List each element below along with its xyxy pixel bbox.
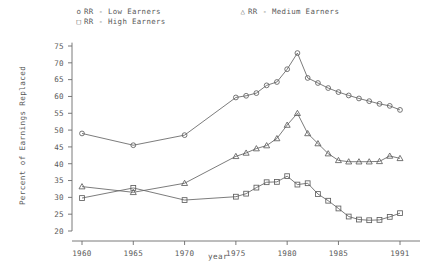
y-tick-label: 40 [54, 160, 64, 169]
y-tick-label: 45 [54, 143, 64, 152]
x-tick-label: 1985 [329, 249, 349, 258]
y-tick-label: 20 [54, 227, 64, 236]
series-triangle [79, 110, 403, 194]
series-circle [80, 51, 403, 148]
series-line [82, 53, 400, 145]
chart-figure: oRR - Low Earners □RR - High Earners △RR… [0, 0, 436, 271]
y-tick-label: 30 [54, 193, 64, 202]
series-line [82, 113, 400, 192]
y-tick-label: 60 [54, 92, 64, 101]
x-tick-label: 1991 [390, 249, 410, 258]
y-tick-label: 35 [54, 176, 64, 185]
x-tick-label: 1980 [277, 249, 297, 258]
y-tick-label: 50 [54, 126, 64, 135]
x-tick-label: 1975 [226, 249, 246, 258]
x-tick-label: 1960 [72, 249, 92, 258]
series-square [80, 174, 403, 223]
x-tick-label: 1965 [124, 249, 144, 258]
y-tick-label: 75 [54, 42, 64, 51]
plot-area: 2025303540455055606570751960196519701975… [0, 0, 436, 271]
x-tick-label: 1970 [175, 249, 195, 258]
series-line [82, 176, 400, 220]
y-tick-label: 70 [54, 59, 64, 68]
y-tick-label: 25 [54, 210, 64, 219]
y-tick-label: 65 [54, 75, 64, 84]
y-tick-label: 55 [54, 109, 64, 118]
